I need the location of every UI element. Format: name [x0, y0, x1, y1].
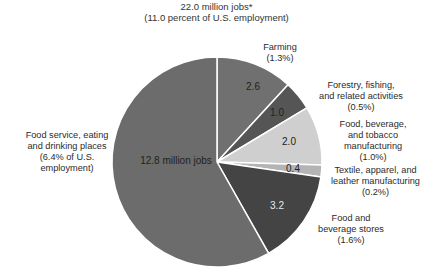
- value-stores: 3.2: [262, 200, 292, 211]
- label-stores: Food and beverage stores (1.6%): [306, 213, 396, 246]
- value-farming: 2.6: [238, 81, 268, 92]
- label-foodbev: Food, beverage, and tobacco manufacturin…: [318, 119, 428, 163]
- label-textile: Textile, apparel, and leather manufactur…: [318, 165, 433, 198]
- value-foodbev: 2.0: [274, 136, 304, 147]
- value-forestry: 1.0: [262, 107, 292, 118]
- label-forestry: Forestry, fishing, and related activitie…: [296, 80, 426, 113]
- label-farming: Farming (1.3%): [250, 42, 310, 64]
- value-service: 12.8 million jobs: [126, 155, 226, 166]
- value-textile: 0.4: [278, 163, 308, 174]
- label-service: Food service, eating and drinking places…: [22, 130, 112, 174]
